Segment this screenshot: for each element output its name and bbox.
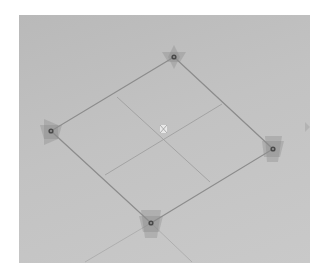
pivot-handle[interactable] [158, 124, 168, 134]
vertex-handle-right[interactable] [264, 140, 282, 158]
vertex-handle-top[interactable] [165, 48, 183, 66]
vertex-handle-bottom[interactable] [142, 214, 160, 232]
vertex-handle-left[interactable] [42, 122, 60, 140]
